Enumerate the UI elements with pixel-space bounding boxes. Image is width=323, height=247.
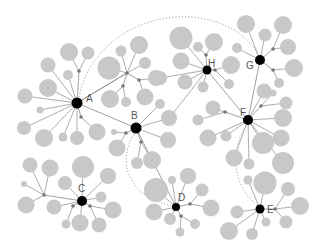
hub-label-g: G [246, 60, 254, 71]
intermediate-node [271, 47, 275, 51]
leaf-node [170, 27, 193, 50]
edge [127, 73, 139, 80]
leaf-node [232, 43, 242, 53]
leaf-node [272, 152, 294, 174]
leaf-node [220, 222, 238, 240]
leaf-node [18, 197, 35, 214]
leaf-node [39, 79, 57, 97]
leaf-node [116, 46, 127, 57]
leaf-node [100, 168, 116, 184]
hub-node-c [77, 196, 87, 206]
leaf-node [196, 184, 209, 197]
leaf-node [257, 84, 272, 99]
network-diagram: ABCDEFGH [0, 0, 323, 247]
hub-node-a [72, 98, 83, 109]
leaf-node [254, 172, 277, 195]
leaf-node [60, 43, 78, 61]
leaf-node [109, 140, 126, 157]
leaf-node [206, 101, 221, 116]
leaf-node [63, 70, 73, 80]
leaf-node [139, 57, 151, 69]
hub-label-d: D [178, 192, 185, 203]
intermediate-node [271, 68, 275, 72]
leaf-node [173, 53, 190, 70]
leaf-node [246, 228, 258, 240]
intermediate-node [223, 110, 227, 114]
leaf-node [98, 57, 121, 80]
intermediate-node [88, 204, 92, 208]
leaf-node [70, 131, 84, 145]
leaf-node [41, 58, 56, 73]
leaf-node [72, 156, 94, 178]
hub-label-b: B [131, 110, 138, 121]
leaf-node [281, 182, 295, 196]
hub-node-e [256, 205, 265, 214]
leaf-node [58, 176, 72, 190]
leaf-node [244, 176, 253, 185]
leaf-node [200, 130, 217, 147]
leaf-node [274, 78, 284, 88]
leaf-node [155, 99, 165, 109]
intermediate-node [79, 115, 83, 119]
edge [248, 120, 249, 164]
intermediate-node [137, 78, 141, 82]
leaf-node [96, 192, 107, 203]
leaf-node [180, 168, 196, 184]
leaf-node [280, 216, 293, 229]
hub-label-f: F [240, 107, 246, 118]
intermediate-node [273, 207, 277, 211]
leaf-node [164, 213, 176, 225]
hub-label-c: C [78, 183, 85, 194]
leaf-node [47, 200, 62, 215]
leaf-node [274, 109, 292, 127]
leaf-node [59, 133, 68, 142]
intermediate-node [204, 53, 208, 57]
leaf-node [105, 202, 122, 219]
intermediate-node [124, 131, 128, 135]
leaf-node [82, 47, 95, 60]
leaf-node [178, 75, 193, 90]
leaf-node [153, 71, 167, 85]
leaf-node [190, 219, 200, 229]
leaf-node [244, 159, 255, 170]
hub-node-d [172, 203, 180, 211]
leaf-node [226, 150, 243, 167]
leaf-node [18, 89, 33, 104]
leaf-nodes-layer [17, 15, 309, 240]
leaf-node [144, 178, 168, 202]
intermediate-node [179, 214, 183, 218]
leaf-node [37, 107, 44, 114]
intermediate-node [77, 69, 81, 73]
leaf-node [23, 158, 38, 173]
intermediate-node [121, 84, 125, 88]
leaf-node [231, 206, 244, 219]
intermediate-node [188, 202, 192, 206]
leaf-node [259, 29, 272, 42]
leaf-node [164, 111, 176, 123]
leaf-node [252, 132, 274, 154]
leaf-node [160, 132, 176, 148]
leaf-node [92, 218, 107, 233]
leaf-node [203, 200, 220, 217]
leaf-node [137, 89, 154, 106]
leaf-node [280, 97, 293, 110]
leaf-node [121, 97, 131, 107]
hub-labels-layer: ABCDEFGH [78, 58, 274, 215]
leaf-node [111, 129, 117, 135]
hub-node-g [255, 55, 265, 65]
leaf-node [21, 181, 27, 187]
edge [44, 195, 82, 201]
leaf-node [222, 56, 240, 74]
leaf-node [280, 39, 296, 55]
edge [24, 103, 77, 128]
leaf-node [193, 115, 204, 126]
intermediate-node [42, 193, 46, 197]
hub-label-a: A [86, 93, 93, 104]
intermediate-node [139, 140, 143, 144]
leaf-node [130, 36, 148, 54]
hub-label-h: H [208, 58, 215, 69]
leaf-node [89, 124, 106, 141]
leaf-node [262, 218, 271, 227]
leaf-node [285, 59, 303, 77]
leaf-node [17, 121, 31, 135]
